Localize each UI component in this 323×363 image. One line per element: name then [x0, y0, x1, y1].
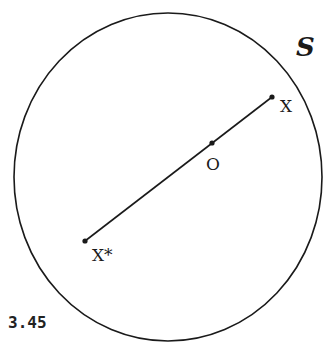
label-x: X	[280, 96, 293, 116]
set-label-s: S	[296, 32, 315, 62]
label-x-star: X*	[92, 245, 113, 265]
diagram-canvas: S X O X* 3.45	[0, 0, 323, 363]
segment-x-xstar	[85, 97, 272, 241]
point-x-star	[82, 238, 87, 243]
point-x	[269, 94, 274, 99]
label-o: O	[206, 154, 220, 174]
point-o	[209, 140, 214, 145]
figure-number: 3.45	[8, 313, 47, 332]
